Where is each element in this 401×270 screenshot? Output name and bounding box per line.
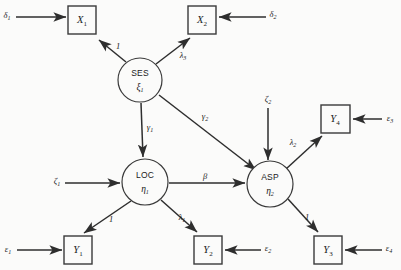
diagram-canvas: X1 X2 Y4 Y1 [0,0,401,270]
error-label-delta1: δ1 [4,10,11,21]
path-ses-to-loc [141,103,143,157]
latent-symbol-loc-sub: 1 [146,189,149,195]
coef-label-ses-x1: 1 [116,41,120,51]
coef-label-ses-x2: λ3 [179,50,187,61]
coef-label-loc-y1: 1 [109,214,113,224]
latent-name-asp: ASP [261,172,279,182]
coef-label-asp-y4: λ2 [289,137,297,148]
latent-symbol-ses-sub: 1 [141,87,144,93]
error-label-epsilon2: ε2 [265,243,271,254]
observed-node-y1[interactable]: Y1 [64,236,92,264]
disturbance-label-zeta2: ζ2 [265,94,271,105]
observed-label-y4-sub: 4 [336,119,340,127]
sem-path-diagram: X1 X2 Y4 Y1 [0,0,401,270]
observed-node-y3[interactable]: Y3 [314,236,342,264]
coef-label-loc-asp: β [202,171,208,181]
latent-node-ses[interactable]: SES ξ1 [118,58,162,102]
coef-label-ses-loc: γ1 [147,122,153,133]
latent-node-loc[interactable]: LOC η1 [122,159,168,205]
disturbance-label-zeta1: ζ1 [54,176,60,187]
observed-node-y2[interactable]: Y2 [194,236,222,264]
latent-name-ses: SES [131,68,149,78]
observed-label-y2-sub: 2 [209,250,213,258]
observed-label-y1-sub: 1 [79,250,83,258]
latent-symbol-asp-sub: 2 [271,191,274,197]
observed-label-x2-sub: 2 [203,20,207,28]
latent-name-loc: LOC [136,170,154,180]
latent-node-asp[interactable]: ASP η2 [247,161,293,207]
error-label-delta2: δ2 [270,9,277,20]
path-asp-to-y3 [288,199,318,232]
observed-variables-group: X1 X2 Y4 Y1 [64,6,350,264]
observed-node-x2[interactable]: X2 [188,6,216,34]
observed-node-x1[interactable]: X1 [68,6,96,34]
path-arrows-group [84,38,322,233]
observed-node-y4[interactable]: Y4 [321,105,350,133]
path-ses-to-asp [159,95,256,170]
latent-variables-group: SES ξ1 LOC η1 ASP η2 [118,58,293,207]
error-label-epsilon4: ε4 [386,243,392,254]
error-label-epsilon1: ε1 [5,244,11,255]
observed-label-y3-sub: 3 [329,250,333,258]
error-label-epsilon3: ε3 [387,113,393,124]
coef-label-loc-y2: λ1 [178,212,186,223]
path-loc-to-y1 [84,201,131,233]
coef-label-ses-asp: γ2 [202,111,208,122]
coef-label-asp-y3: 1 [305,212,309,222]
observed-label-x1-sub: 1 [83,20,87,28]
path-ses-to-x1 [99,40,126,62]
